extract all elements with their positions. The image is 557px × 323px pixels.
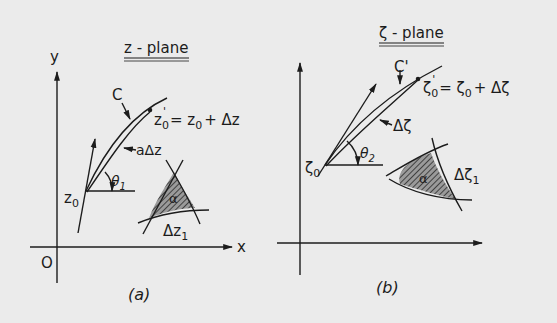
caption-b: (b) bbox=[376, 278, 399, 297]
leader-c bbox=[122, 103, 130, 119]
region-delta-z1-label: Δz1 bbox=[163, 222, 188, 243]
point-zeta0-prime bbox=[416, 77, 419, 80]
panel-a-labels: z - plane y x O C z0 z0'= z0+ Δz aΔz θ1 … bbox=[41, 39, 246, 304]
panel-b-labels: ζ - plane C' ζ0 ζ0'= ζ0+ Δζ Δζ θ2 α Δζ1 … bbox=[305, 24, 509, 297]
z0-prime-equation: z0'= z0+ Δz bbox=[154, 105, 240, 132]
tangent-line bbox=[78, 139, 95, 233]
panel-a-z-plane bbox=[30, 72, 232, 283]
origin-label: O bbox=[41, 254, 53, 272]
chord-delta-zeta-label: Δζ bbox=[393, 117, 411, 135]
point-z0-prime bbox=[148, 108, 151, 111]
curve-c-label: C bbox=[112, 86, 122, 104]
y-axis-label: y bbox=[50, 48, 59, 66]
angle-arc-theta2 bbox=[347, 141, 358, 165]
x-axis-label: x bbox=[237, 238, 246, 256]
z0-label: z0 bbox=[64, 189, 79, 210]
tangent-line-b bbox=[318, 84, 376, 176]
conformal-mapping-figure: z - plane y x O C z0 z0'= z0+ Δz aΔz θ1 … bbox=[0, 0, 557, 323]
region-alpha-a: α bbox=[169, 191, 178, 206]
curve-c-prime-label: C' bbox=[394, 58, 409, 76]
caption-a: (a) bbox=[128, 285, 150, 304]
leader-delta-zeta bbox=[380, 120, 392, 125]
leader-chord bbox=[124, 148, 136, 150]
theta2-label: θ2 bbox=[360, 145, 375, 164]
region-alpha-b: α bbox=[419, 171, 428, 186]
zeta-plane-title: ζ - plane bbox=[379, 24, 444, 42]
theta1-label: θ1 bbox=[111, 173, 126, 192]
z-plane-title: z - plane bbox=[124, 39, 188, 57]
zeta0-prime-equation: ζ0'= ζ0+ Δζ bbox=[423, 73, 509, 100]
region-delta-zeta1-label: Δζ1 bbox=[454, 166, 479, 187]
chord-label: aΔz bbox=[136, 142, 162, 158]
zeta0-label: ζ0 bbox=[305, 159, 320, 180]
